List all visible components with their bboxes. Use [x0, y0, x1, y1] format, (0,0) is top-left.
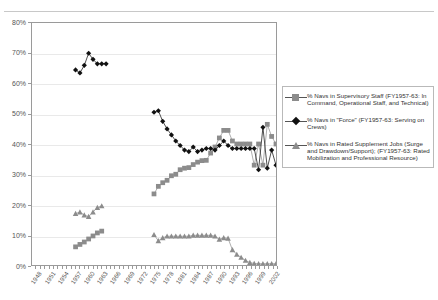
x-axis-tick	[132, 266, 133, 269]
x-axis-tick	[106, 266, 107, 269]
x-axis-tick	[242, 266, 243, 269]
data-point	[82, 212, 88, 217]
data-point	[247, 142, 252, 147]
data-point	[269, 261, 275, 265]
data-series	[73, 203, 276, 265]
x-axis-tick	[84, 266, 85, 269]
data-point	[208, 151, 213, 156]
x-axis-tick	[172, 266, 173, 269]
data-point	[156, 108, 161, 113]
data-point	[169, 173, 174, 178]
data-point	[256, 261, 262, 265]
x-axis-tick	[167, 266, 168, 269]
x-axis-tick	[40, 266, 41, 269]
data-point	[195, 160, 200, 165]
y-axis-tick-label: 40%	[0, 141, 26, 148]
data-point	[99, 229, 104, 234]
data-point	[164, 126, 169, 131]
data-point	[252, 146, 257, 151]
x-axis-tick	[88, 266, 89, 269]
data-point	[103, 61, 108, 66]
data-point	[160, 235, 166, 240]
x-axis-tick	[97, 266, 98, 269]
data-point	[260, 261, 266, 265]
x-axis-tick	[194, 266, 195, 269]
x-axis-tick	[141, 266, 142, 269]
data-point	[221, 235, 227, 240]
legend-item-supervisory-staff[interactable]: % Navs in Supervisory Staff (FY1957-63: …	[285, 92, 430, 107]
data-point	[269, 147, 274, 152]
x-axis-tick	[216, 266, 217, 269]
y-axis-tick-label: 50%	[0, 110, 26, 117]
data-point	[274, 142, 276, 147]
data-point	[99, 203, 105, 208]
diamond-marker-icon	[285, 117, 307, 126]
x-axis-tick	[145, 266, 146, 269]
x-axis-tick	[180, 266, 181, 269]
x-axis-tick	[93, 266, 94, 269]
x-axis-tick	[163, 266, 164, 269]
x-axis-tick	[79, 266, 80, 269]
data-point	[265, 122, 270, 127]
plot-area	[31, 22, 277, 266]
x-axis-tick	[49, 266, 50, 269]
x-axis-tick	[246, 266, 247, 269]
series-layer	[32, 23, 276, 265]
y-axis-tick-label: 80%	[0, 19, 26, 26]
data-point	[78, 242, 83, 247]
chart-page: 0%10%20%30%40%50%60%70%80% 1948195119541…	[0, 0, 438, 300]
data-point	[91, 234, 96, 239]
x-axis-tick	[185, 266, 186, 269]
x-axis-tick	[198, 266, 199, 269]
data-point	[73, 211, 79, 216]
data-point	[182, 166, 187, 171]
x-axis-tick	[123, 266, 124, 269]
x-axis-tick	[277, 266, 278, 269]
x-axis-tick	[207, 266, 208, 269]
data-point	[230, 247, 236, 252]
data-point	[86, 51, 91, 56]
x-axis-tick	[66, 266, 67, 269]
series-line	[154, 235, 276, 264]
data-point	[221, 128, 226, 133]
data-point	[95, 231, 100, 236]
x-axis-tick	[71, 266, 72, 269]
data-point	[243, 258, 249, 263]
data-point	[82, 63, 87, 68]
data-point	[173, 172, 178, 177]
data-point	[178, 167, 183, 172]
x-axis-tick	[264, 266, 265, 269]
x-axis-tick	[44, 266, 45, 269]
x-axis-tick	[273, 266, 274, 269]
data-point	[95, 205, 101, 210]
x-axis-tick	[53, 266, 54, 269]
x-axis-tick	[220, 266, 221, 269]
data-point	[191, 162, 196, 167]
data-point	[238, 255, 244, 260]
x-axis-tick	[150, 266, 151, 269]
y-axis-tick-label: 10%	[0, 232, 26, 239]
x-axis-tick	[158, 266, 159, 269]
x-axis-tick	[101, 266, 102, 269]
data-point	[186, 165, 191, 170]
legend-item-force[interactable]: % Navs in "Force" (FY1957-63: Serving on…	[285, 116, 430, 131]
legend-label: % Navs in Rated Supplement Jobs (Surge a…	[307, 140, 430, 162]
data-point	[239, 142, 244, 147]
data-point	[234, 142, 239, 147]
x-axis-tick	[176, 266, 177, 269]
data-point	[151, 232, 157, 237]
x-axis-tick	[75, 266, 76, 269]
x-axis-tick	[255, 266, 256, 269]
data-point	[73, 244, 78, 249]
x-axis-tick	[237, 266, 238, 269]
x-axis-tick	[119, 266, 120, 269]
legend-label: % Navs in Supervisory Staff (FY1957-63: …	[307, 92, 430, 107]
legend-label: % Navs in "Force" (FY1957-63: Serving on…	[307, 116, 430, 131]
data-point	[86, 237, 91, 242]
x-axis-tick	[128, 266, 129, 269]
page-title	[30, 0, 360, 9]
data-point	[217, 237, 223, 242]
x-axis-tick	[62, 266, 63, 269]
legend-item-rated-supplement[interactable]: % Navs in Rated Supplement Jobs (Surge a…	[285, 140, 430, 162]
y-axis-tick-label: 30%	[0, 171, 26, 178]
